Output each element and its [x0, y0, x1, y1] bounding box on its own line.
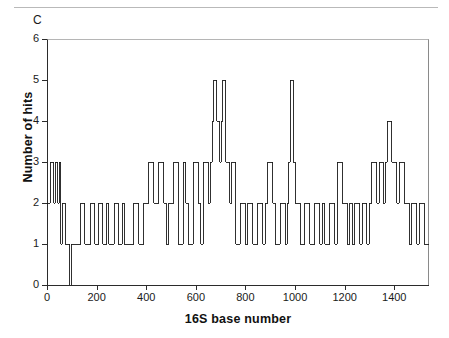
x-tick-label: 1000 [275, 292, 315, 303]
x-tick [146, 285, 147, 290]
x-tick [345, 285, 346, 290]
x-tick-label: 600 [176, 292, 216, 303]
x-tick [47, 285, 48, 290]
x-tick [245, 285, 246, 290]
x-axis-line [47, 285, 429, 286]
chart-trace [47, 39, 429, 285]
x-tick [97, 285, 98, 290]
y-tick [42, 121, 47, 122]
x-tick-label: 800 [225, 292, 265, 303]
y-tick-label: 0 [13, 279, 39, 290]
y-tick [42, 203, 47, 204]
y-tick-label: 1 [13, 238, 39, 249]
x-axis-title: 16S base number [47, 312, 429, 326]
x-tick [394, 285, 395, 290]
y-tick [42, 244, 47, 245]
y-tick [42, 80, 47, 81]
x-tick [295, 285, 296, 290]
figure-panel-c: 0123456 0200400600800100012001400 Number… [0, 0, 449, 338]
x-tick-label: 0 [27, 292, 67, 303]
x-tick-label: 400 [126, 292, 166, 303]
y-tick-label: 6 [13, 33, 39, 44]
x-tick-label: 1200 [325, 292, 365, 303]
x-tick [196, 285, 197, 290]
y-tick [42, 39, 47, 40]
x-tick-label: 1400 [374, 292, 414, 303]
y-tick [42, 162, 47, 163]
x-tick-label: 200 [77, 292, 117, 303]
y-axis-title: Number of hits [21, 57, 35, 217]
